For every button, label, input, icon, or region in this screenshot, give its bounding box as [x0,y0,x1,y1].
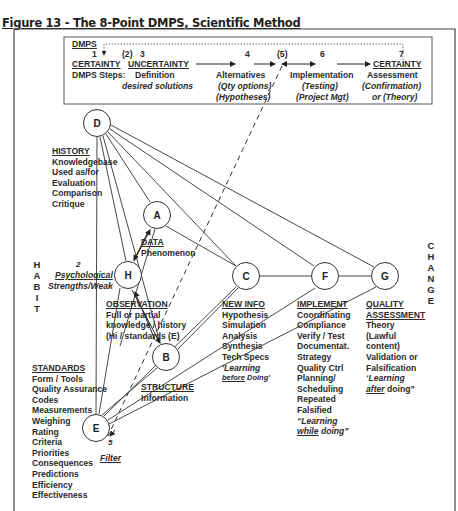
new-info-block: NEW INFO HypothesisSimulationAnalysisSyn… [222,299,270,384]
step-5-number: (5) [277,49,288,60]
step-1-number: 1 [92,49,97,60]
implement-block: IMPLEMENT CoordinatingComplianceVerify /… [297,299,350,437]
step-4-qty-options: (Qty options) [218,81,271,92]
history-block: HISTORY KnowledgebaseUsed as/forEvaluati… [52,146,117,210]
structure-block: STRUCTURE Information [141,382,194,403]
dmps-title: DMPS [72,39,97,50]
step-6-testing: (Testing) [302,81,338,92]
quality-assessment-block: QUALITY ASSESSMENT Theory(Lawfulcontent)… [366,299,425,394]
psych-block: Psychological Strengths/Weak [48,270,113,291]
step-4-number: 4 [245,49,250,60]
step-7-number: 7 [399,49,404,60]
step-6-number: 6 [320,49,325,60]
node-d: D [83,109,111,137]
step-7-theory: or (Theory) [372,92,417,103]
observation-block: OBSERVATION Full or partialknowledge / h… [106,299,186,341]
step-4-hypotheses: (Hypotheses) [216,92,270,103]
node-g: G [371,262,399,290]
node-b: B [152,343,180,371]
dmps-steps-label: DMPS Steps: [72,70,125,81]
step-7-confirmation: (Confirmation) [362,81,421,92]
node-c: C [232,262,260,290]
step-1-certainty: CERTAINTY [72,59,121,70]
step-7-assessment: Assessment [367,70,418,81]
step-4-alternatives: Alternatives [216,70,265,81]
filter-number: 5 [108,438,112,449]
standards-block: STANDARDS Form / ToolsQuality AssuranceC… [32,363,107,501]
filter-label: Filter [100,453,121,464]
step-3-number: 3 [140,49,145,60]
data-block: DATA Phenomenon [141,237,195,258]
habit-label: HABIT [32,259,42,314]
node-a: A [143,201,171,229]
step-7-certainty: CERTAINTY [373,59,422,70]
step-3-definition: Definition [135,70,175,81]
step-2-number: (2) [122,49,133,60]
node-h: H [114,261,142,289]
psych-number: 2 [76,260,80,271]
step-3-desired-solutions: desired solutions [122,81,193,92]
node-f: F [311,262,339,290]
step-6-implementation: Implementation [290,70,354,81]
step-6-project-mgt: (Project Mgt) [296,92,349,103]
step-3-uncertainty: UNCERTAINTY [128,59,189,70]
change-label: CHANGE [426,240,436,306]
